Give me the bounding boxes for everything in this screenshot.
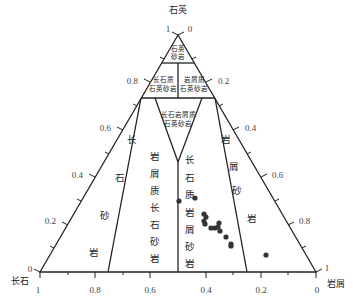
svg-text:长: 长 xyxy=(185,154,195,165)
svg-text:长: 长 xyxy=(150,202,160,213)
left-axis-0.6: 0.6 xyxy=(100,123,112,133)
region-feld-quartz-l2: 石英砂岩 xyxy=(149,84,177,93)
svg-text:岩: 岩 xyxy=(89,247,99,258)
data-point xyxy=(192,195,197,200)
region-lithic-arkose: 岩 屑 质 长 石 砂 岩 xyxy=(150,151,160,264)
data-point xyxy=(223,234,228,239)
svg-text:岩: 岩 xyxy=(185,258,195,269)
data-point xyxy=(263,252,268,257)
right-axis-0.4: 0.4 xyxy=(245,123,257,133)
left-vertex-bottom-tick: 1 xyxy=(36,285,41,295)
svg-text:岩: 岩 xyxy=(150,253,160,264)
vertex-label-lithic: 岩屑 xyxy=(327,278,345,289)
left-axis-0.4: 0.4 xyxy=(72,170,84,180)
svg-text:质: 质 xyxy=(150,185,160,196)
svg-text:砂: 砂 xyxy=(185,241,195,252)
data-point xyxy=(217,228,222,233)
bottom-axis-0.2: 0.2 xyxy=(255,285,266,295)
region-feld-lith-quartz-l1: 长石岩屑质 xyxy=(161,110,196,119)
vertex-label-feldspar: 长石 xyxy=(11,275,29,286)
right-ticks xyxy=(178,32,322,272)
region-quartz-sandstone-l1: 石英 xyxy=(171,44,185,53)
svg-text:岩: 岩 xyxy=(221,134,231,145)
vertex-label-quartz: 石英 xyxy=(169,4,187,15)
svg-text:屑: 屑 xyxy=(150,168,160,179)
svg-text:长: 长 xyxy=(127,134,137,145)
left-vertex-side-tick: 0 xyxy=(28,264,33,274)
svg-text:砂: 砂 xyxy=(232,185,242,196)
svg-text:石: 石 xyxy=(150,219,160,230)
ternary-diagram: 石英 1 0 长石 0 1 岩屑 1 0 0.8 0.6 0.4 0.2 0.2… xyxy=(0,0,353,308)
region-feld-lith-quartz-l2: 石英砂岩 xyxy=(164,119,192,128)
region-feld-quartz-l1: 长石质 xyxy=(153,75,174,84)
svg-text:石: 石 xyxy=(185,172,195,183)
right-axis-0.8: 0.8 xyxy=(299,216,311,226)
right-vertex-side-tick: 1 xyxy=(325,263,330,273)
svg-text:岩: 岩 xyxy=(150,151,160,162)
bottom-ticks xyxy=(40,272,316,278)
region-lith-quartz-l1: 岩屑质 xyxy=(184,75,205,84)
region-arkose: 长 石 砂 岩 xyxy=(89,134,137,258)
svg-text:石: 石 xyxy=(115,172,125,183)
svg-text:岩: 岩 xyxy=(247,213,257,224)
right-axis-0.6: 0.6 xyxy=(272,170,284,180)
svg-text:屑: 屑 xyxy=(229,161,239,172)
left-axis-0.2: 0.2 xyxy=(45,216,56,226)
bottom-axis-0.6: 0.6 xyxy=(144,285,156,295)
left-axis-0.8: 0.8 xyxy=(127,76,139,86)
boundary-left xyxy=(108,98,141,272)
data-point xyxy=(228,243,233,248)
svg-text:砂: 砂 xyxy=(150,236,160,247)
svg-text:岩: 岩 xyxy=(185,207,195,218)
region-quartz-sandstone-l2: 砂岩 xyxy=(171,52,185,61)
bottom-axis-0.4: 0.4 xyxy=(200,285,212,295)
top-tick-left: 1 xyxy=(166,24,171,34)
right-axis-0.2: 0.2 xyxy=(218,76,229,86)
svg-text:屑: 屑 xyxy=(185,224,195,235)
region-feldspathic-litharenite: 长 石 质 岩 屑 砂 岩 xyxy=(185,154,195,269)
top-tick-right: 0 xyxy=(188,24,193,34)
bottom-axis-0.8: 0.8 xyxy=(89,285,101,295)
region-lith-quartz-l2: 石英砂岩 xyxy=(180,84,208,93)
data-point xyxy=(216,220,221,225)
right-vertex-bottom-tick: 0 xyxy=(315,285,320,295)
data-point xyxy=(202,221,207,226)
svg-text:砂: 砂 xyxy=(100,210,110,221)
data-point xyxy=(176,198,181,203)
region-litharenite: 岩 屑 砂 岩 xyxy=(221,134,257,224)
v-right xyxy=(178,98,202,162)
